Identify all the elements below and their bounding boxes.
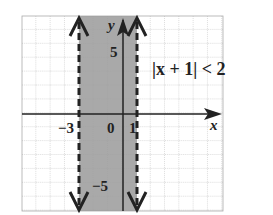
y-axis-label: y bbox=[106, 17, 115, 33]
tick-label-0: 0 bbox=[107, 120, 115, 136]
tick-label-neg3: −3 bbox=[58, 120, 74, 136]
inequality-label: |x + 1| < 2 bbox=[152, 59, 225, 79]
tick-label-5: 5 bbox=[110, 44, 118, 60]
tick-label-neg5: −5 bbox=[92, 178, 108, 194]
inequality-graph: y x 5 −3 0 1 −5 |x + 1| < 2 bbox=[0, 0, 273, 215]
x-axis-label: x bbox=[209, 117, 218, 133]
tick-label-1: 1 bbox=[129, 120, 137, 136]
